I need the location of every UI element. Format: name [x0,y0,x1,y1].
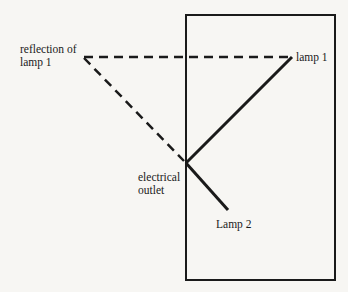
reflection-label-line1: reflection of [20,43,77,56]
outlet-label: electrical outlet [138,171,180,197]
reflection-label-line2: lamp 1 [20,56,77,69]
outlet-label-line2: outlet [138,184,180,197]
dashed-line-reflection-to-outlet [84,58,184,161]
outlet-label-line1: electrical [138,171,180,184]
lamp1-label: lamp 1 [296,51,328,64]
ray-outlet-to-lamp2 [186,163,228,210]
lamp2-label: Lamp 2 [216,218,251,231]
reflection-label: reflection of lamp 1 [20,43,77,69]
ray-lamp1-to-outlet [186,57,292,163]
